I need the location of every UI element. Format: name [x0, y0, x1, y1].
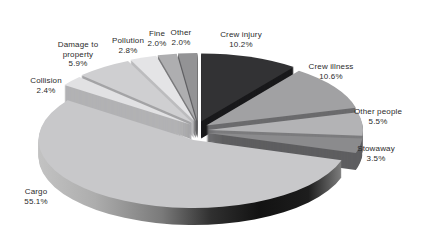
pie-chart — [0, 0, 425, 236]
chart-area: Crew injury10.2%Crew illness10.6%Other p… — [0, 0, 425, 236]
